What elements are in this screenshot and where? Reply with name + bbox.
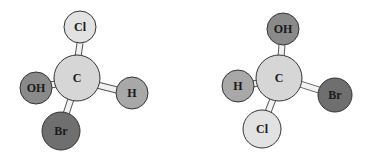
atom-label: H <box>127 86 137 100</box>
atom-label: Br <box>54 124 68 138</box>
molecule-right: OH H C Br Cl <box>222 13 352 148</box>
molecule-diagram: Cl OH C H Br OH H C Br Cl <box>0 0 366 163</box>
atom-label: C <box>73 71 82 85</box>
atom-label: Cl <box>256 122 269 136</box>
atom-label: H <box>233 79 243 93</box>
molecule-left: Cl OH C H Br <box>20 11 148 150</box>
atom-label: OH <box>27 81 46 95</box>
atom-label: Cl <box>74 20 87 34</box>
atom-label: C <box>275 71 284 85</box>
atom-label: OH <box>274 22 293 36</box>
atom-label: Br <box>328 88 342 102</box>
